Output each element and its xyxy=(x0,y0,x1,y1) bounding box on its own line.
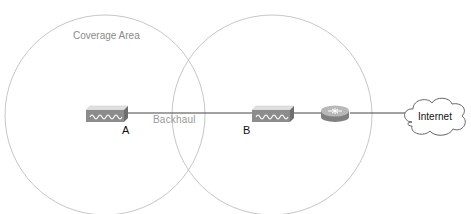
node-b-label: B xyxy=(243,124,250,136)
backhaul-label: Backhaul xyxy=(153,114,196,125)
node-a-label: A xyxy=(122,124,129,136)
coverage-area-label: Coverage Area xyxy=(73,30,140,41)
diagram-canvas: Coverage Area Backhaul A B Internet xyxy=(0,0,471,214)
network-diagram xyxy=(0,0,471,214)
wireless-access-point-icon xyxy=(252,106,294,122)
router-icon xyxy=(321,106,349,123)
internet-label: Internet xyxy=(418,111,452,122)
wireless-access-point-icon xyxy=(86,106,128,122)
